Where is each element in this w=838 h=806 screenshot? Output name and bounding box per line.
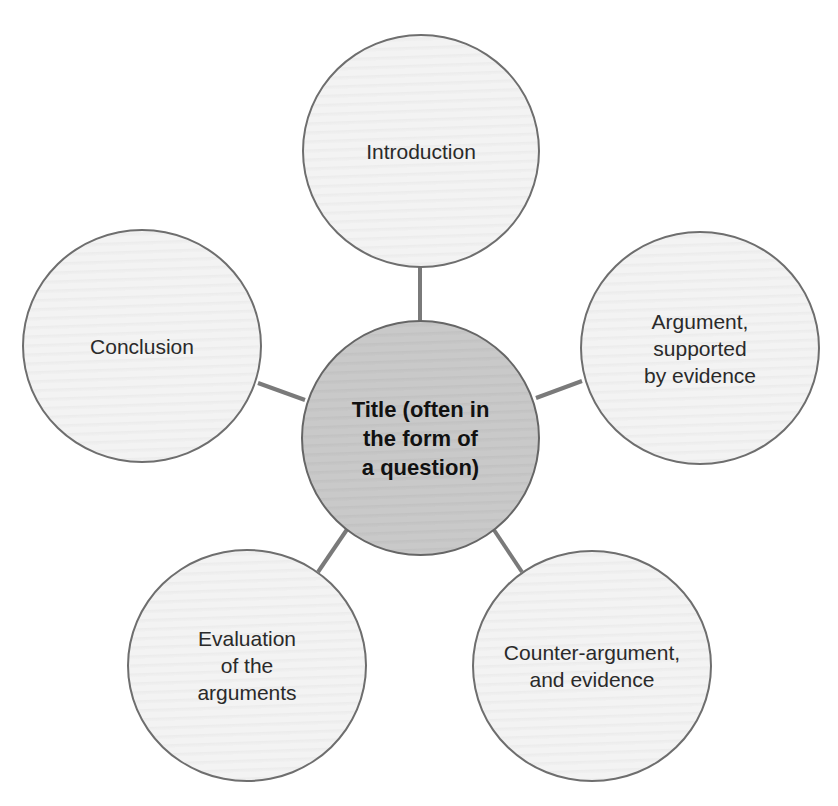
- node-conclusion: Conclusion: [22, 229, 262, 463]
- node-title-center: Title (often in the form of a question): [301, 320, 540, 556]
- center-label: Title (often in the form of a question): [352, 395, 490, 482]
- node-label: Argument, supported by evidence: [644, 308, 756, 389]
- node-counter-argument: Counter-argument, and evidence: [472, 550, 712, 782]
- node-introduction: Introduction: [302, 34, 540, 268]
- node-evaluation: Evaluation of the arguments: [127, 549, 367, 782]
- connector-evaluation: [318, 528, 348, 572]
- node-label: Evaluation of the arguments: [197, 625, 296, 706]
- connector-conclusion: [258, 383, 305, 400]
- connector-counter: [494, 530, 522, 572]
- node-argument: Argument, supported by evidence: [580, 231, 820, 465]
- node-label: Conclusion: [90, 333, 194, 360]
- node-label: Introduction: [366, 138, 476, 165]
- node-label: Counter-argument, and evidence: [504, 639, 680, 693]
- connector-argument: [536, 381, 582, 398]
